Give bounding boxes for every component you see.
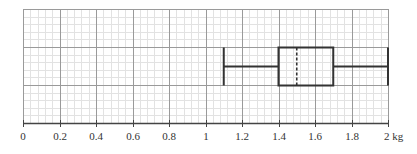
- box-plot-chart: 00.20.40.60.811.21.41.61.82 kg: [0, 0, 417, 154]
- x-tick-label: 0.8: [162, 130, 176, 142]
- x-tick-label: 2 kg: [384, 130, 404, 142]
- x-tick-label: 0.4: [89, 130, 103, 142]
- x-tick-label: 0: [20, 130, 26, 142]
- box-plot: [224, 48, 388, 86]
- x-tick-label: 1.6: [308, 130, 322, 142]
- x-tick-label: 1.8: [345, 130, 359, 142]
- x-tick-label: 1.2: [235, 130, 249, 142]
- x-tick-label: 0.6: [126, 130, 140, 142]
- x-tick-label: 1: [203, 130, 209, 142]
- x-tick-label: 0.2: [53, 130, 67, 142]
- x-tick-label: 1.4: [272, 130, 286, 142]
- x-axis: [23, 120, 389, 127]
- x-tick-labels: 00.20.40.60.811.21.41.61.82 kg: [20, 130, 404, 142]
